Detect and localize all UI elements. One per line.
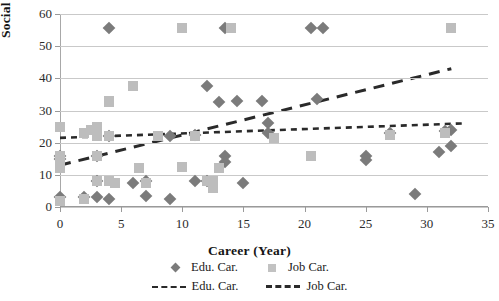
gridline (60, 111, 488, 112)
legend-item-job-line: Job Car. (266, 279, 347, 294)
legend-item-edu-marker: Edu. Car. (170, 260, 238, 275)
gridline (60, 14, 488, 15)
chart-legend: Edu. Car. Job Car. Edu. Car. Job Car. (0, 258, 499, 296)
y-axis-tick (55, 46, 60, 47)
data-point-square (141, 178, 151, 188)
dashed-line-icon (266, 285, 300, 288)
data-point-square (104, 96, 114, 106)
x-axis-tick-label: 30 (412, 217, 442, 230)
trendline-edu-car (60, 123, 464, 137)
data-point-square (104, 131, 114, 141)
data-point-square (153, 131, 163, 141)
y-axis-tick (55, 175, 60, 176)
y-axis-title: Social Networks (0, 0, 14, 38)
diamond-marker-icon (171, 263, 181, 273)
legend-item-edu-line: Edu. Car. (152, 279, 239, 294)
data-point-square (55, 163, 65, 173)
legend-label: Edu. Car. (192, 279, 239, 294)
y-axis-tick (55, 14, 60, 15)
x-axis-tick-label: 0 (45, 217, 75, 230)
gridline (60, 175, 488, 176)
x-axis-tick (427, 207, 428, 212)
dotted-line-icon (152, 286, 186, 288)
x-axis-tick-label: 10 (167, 217, 197, 230)
data-point-square (306, 151, 316, 161)
x-axis-tick-label: 5 (106, 217, 136, 230)
x-axis-tick-label: 20 (290, 217, 320, 230)
data-point-square (269, 133, 279, 143)
y-axis-tick-label: 60 (26, 7, 52, 20)
y-axis-tick (55, 78, 60, 79)
data-point-square (177, 23, 187, 33)
scatter-chart: Social Networks Career (Year) Edu. Car. … (0, 0, 499, 301)
legend-row-lines: Edu. Car. Job Car. (0, 277, 499, 296)
x-axis-tick (243, 207, 244, 212)
gridline (60, 46, 488, 47)
data-point-square (134, 163, 144, 173)
x-axis-tick-label: 25 (351, 217, 381, 230)
y-axis-tick-label: 10 (26, 168, 52, 181)
legend-label: Job Car. (288, 260, 329, 275)
data-point-square (177, 162, 187, 172)
x-axis-title: Career (Year) (0, 243, 499, 259)
trendline-job-car (60, 69, 451, 166)
y-axis-tick-label: 30 (26, 104, 52, 117)
x-axis-tick-label: 15 (228, 217, 258, 230)
x-axis-tick (305, 207, 306, 212)
y-axis-tick (55, 111, 60, 112)
y-axis-tick-label: 20 (26, 136, 52, 149)
y-axis-tick-label: 40 (26, 71, 52, 84)
data-point-square (110, 178, 120, 188)
y-axis-tick-label: 50 (26, 39, 52, 52)
x-axis-tick (121, 207, 122, 212)
x-axis-tick (182, 207, 183, 212)
y-axis-tick-label: 0 (26, 200, 52, 213)
legend-item-job-marker: Job Car. (266, 260, 329, 275)
data-point-square (92, 122, 102, 132)
x-axis-tick (488, 207, 489, 212)
x-axis-tick-label: 35 (473, 217, 499, 230)
data-point-square (440, 128, 450, 138)
legend-row-markers: Edu. Car. Job Car. (0, 258, 499, 277)
data-point-square (92, 131, 102, 141)
data-point-square (79, 194, 89, 204)
data-point-square (385, 130, 395, 140)
data-point-square (446, 23, 456, 33)
x-axis-tick (60, 207, 61, 212)
data-point-square (55, 196, 65, 206)
legend-label: Edu. Car. (191, 260, 238, 275)
data-point-square (92, 176, 102, 186)
data-point-square (92, 151, 102, 161)
legend-label: Job Car. (306, 279, 347, 294)
y-axis-tick (55, 143, 60, 144)
square-marker-icon (268, 264, 276, 272)
gridline (60, 78, 488, 79)
data-point-square (190, 131, 200, 141)
data-point-square (214, 163, 224, 173)
data-point-square (55, 122, 65, 132)
data-point-square (208, 183, 218, 193)
gridline (60, 207, 488, 208)
x-axis-tick (366, 207, 367, 212)
data-point-square (226, 23, 236, 33)
data-point-square (128, 81, 138, 91)
plot-area (60, 14, 488, 207)
